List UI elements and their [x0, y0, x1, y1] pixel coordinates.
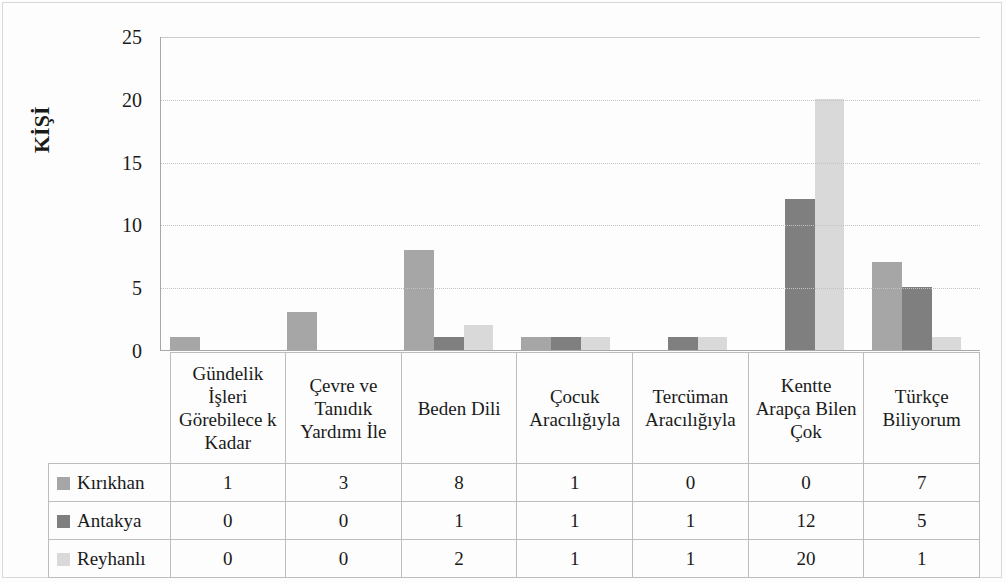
table-cell: 1	[864, 540, 980, 578]
bar	[521, 337, 551, 350]
bar-group-bars	[170, 37, 259, 350]
table-category-row: Gündelik İşleri Görebilece k KadarÇevre …	[49, 353, 980, 464]
y-axis-title: KİŞİ	[29, 113, 55, 153]
y-axis-tick: 25	[98, 27, 142, 47]
table-cell: 0	[633, 464, 749, 502]
table-category-header: Beden Dili	[401, 353, 517, 464]
table-row: Kırıkhan1381007	[49, 464, 980, 502]
table-row: Antakya00111125	[49, 502, 980, 540]
table-cell: 0	[748, 464, 864, 502]
table-cell: 1	[517, 502, 633, 540]
table-cell: 0	[170, 502, 286, 540]
bar	[581, 337, 611, 350]
gridline	[161, 37, 980, 38]
bar-group	[512, 37, 629, 350]
table-cell: 20	[748, 540, 864, 578]
bar	[551, 337, 581, 350]
y-axis-tick: 5	[98, 278, 142, 298]
table-cell: 8	[401, 464, 517, 502]
legend-item-antakya: Antakya	[49, 502, 171, 540]
table-category-header: Çevre ve Tanıdık Yardımı İle	[286, 353, 402, 464]
bar-group-bars	[638, 37, 727, 350]
bar-group-bars	[404, 37, 493, 350]
table-cell: 7	[864, 464, 980, 502]
legend-label: Antakya	[77, 510, 141, 531]
legend-swatch-icon	[57, 515, 70, 528]
legend-item-kırıkhan: Kırıkhan	[49, 464, 171, 502]
legend-swatch-icon	[57, 553, 70, 566]
table-category-header: Gündelik İşleri Görebilece k Kadar	[170, 353, 286, 464]
legend-item-reyhanlı: Reyhanlı	[49, 540, 171, 578]
table-cell: 1	[517, 540, 633, 578]
legend-label: Reyhanlı	[77, 548, 146, 569]
table-category-header: Kentte Arapça Bilen Çok	[748, 353, 864, 464]
table-row: Reyhanlı00211201	[49, 540, 980, 578]
bar-group	[629, 37, 746, 350]
table-cell: 1	[401, 502, 517, 540]
bar	[902, 287, 932, 350]
y-axis-tick: 20	[98, 90, 142, 110]
table-category-header: Türkçe Biliyorum	[864, 353, 980, 464]
gridline	[161, 163, 980, 164]
bar-group	[278, 37, 395, 350]
table-cell: 1	[170, 464, 286, 502]
bar	[287, 312, 317, 350]
bar	[932, 337, 962, 350]
bar-group	[395, 37, 512, 350]
data-table: Gündelik İşleri Görebilece k KadarÇevre …	[48, 352, 980, 578]
y-axis-tick-labels: 2520151050	[98, 25, 150, 361]
table-corner-cell	[49, 353, 171, 464]
bar-group	[161, 37, 278, 350]
gridline	[161, 225, 980, 226]
bar-group	[863, 37, 980, 350]
bar-group	[746, 37, 863, 350]
table-cell: 3	[286, 464, 402, 502]
legend-swatch-icon	[57, 477, 70, 490]
table-cell: 5	[864, 502, 980, 540]
table-cell: 2	[401, 540, 517, 578]
data-table-body: Gündelik İşleri Görebilece k KadarÇevre …	[49, 353, 980, 578]
bar-group-bars	[521, 37, 610, 350]
table-cell: 0	[170, 540, 286, 578]
bar	[404, 250, 434, 350]
gridline	[161, 288, 980, 289]
table-cell: 1	[517, 464, 633, 502]
table-category-header: Çocuk Aracılığıyla	[517, 353, 633, 464]
bar	[872, 262, 902, 350]
bar	[698, 337, 728, 350]
bar-group-bars	[872, 37, 961, 350]
bar	[668, 337, 698, 350]
table-cell: 1	[633, 502, 749, 540]
gridline	[161, 100, 980, 101]
y-axis-tick: 15	[98, 153, 142, 173]
bar-groups	[161, 37, 980, 350]
table-cell: 0	[286, 502, 402, 540]
bar	[170, 337, 200, 350]
plot-area	[160, 37, 980, 351]
bar	[434, 337, 464, 350]
y-axis-tick: 10	[98, 215, 142, 235]
bar	[785, 199, 815, 350]
chart-screenshot: KİŞİ 2520151050 Gündelik İşleri Görebile…	[0, 0, 1006, 582]
table-cell: 12	[748, 502, 864, 540]
bar-group-bars	[287, 37, 376, 350]
table-category-header: Tercüman Aracılığıyla	[633, 353, 749, 464]
legend-label: Kırıkhan	[77, 472, 145, 493]
table-cell: 0	[286, 540, 402, 578]
bar-group-bars	[755, 37, 844, 350]
bar	[464, 325, 494, 350]
bar-chart: KİŞİ 2520151050	[0, 0, 1006, 352]
table-cell: 1	[633, 540, 749, 578]
